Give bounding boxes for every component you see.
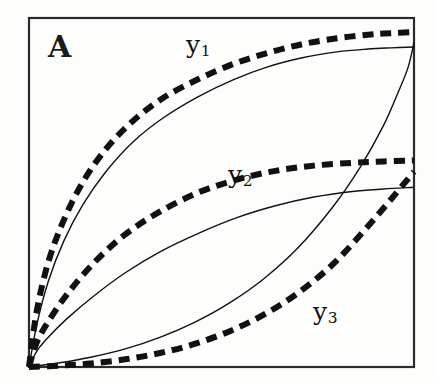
curve-label-y3-base: y	[313, 297, 327, 326]
plot-frame	[29, 18, 414, 367]
curve-y2-solid	[29, 187, 414, 367]
curve-y3-solid	[29, 42, 414, 367]
curve-label-y3: y3	[313, 299, 338, 327]
curve-label-y2-sub: 2	[243, 172, 253, 190]
figure-panel-a: A y1 y2 y3	[0, 0, 436, 381]
curve-label-y3-sub: 3	[328, 309, 338, 327]
curve-label-y1-sub: 1	[201, 42, 211, 60]
panel-label-a: A	[48, 32, 71, 62]
curves-group	[29, 32, 414, 367]
curve-label-y1: y1	[186, 32, 211, 60]
curve-label-y1-base: y	[186, 30, 200, 59]
curve-label-y2: y2	[228, 162, 253, 190]
curve-label-y2-base: y	[228, 160, 242, 189]
curve-y1-solid	[29, 47, 414, 367]
